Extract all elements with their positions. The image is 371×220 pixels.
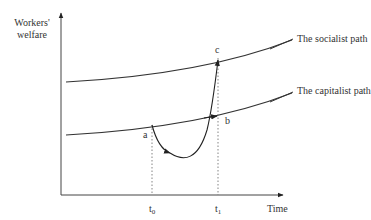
t0-tick-label: t0 bbox=[149, 203, 155, 216]
t1-tick-label: t1 bbox=[215, 203, 221, 216]
point-b-label: b bbox=[225, 115, 230, 127]
x-axis-label: Time bbox=[267, 203, 288, 215]
point-c-label: c bbox=[215, 44, 219, 56]
y-axis-label-line1: Workers' bbox=[8, 17, 56, 29]
t0-subscript: 0 bbox=[152, 208, 156, 216]
transition-path-up bbox=[170, 60, 218, 158]
y-axis-label: Workers' welfare bbox=[8, 17, 56, 40]
capitalist-path-curve bbox=[66, 93, 292, 135]
t1-subscript: 1 bbox=[218, 208, 222, 216]
socialist-path-curve bbox=[66, 40, 292, 82]
capitalist-path-label: The capitalist path bbox=[297, 85, 371, 97]
point-a-label: a bbox=[143, 129, 147, 141]
capitalist-arrow-b bbox=[204, 116, 217, 118]
y-axis-label-line2: welfare bbox=[8, 29, 56, 41]
transition-path-down bbox=[152, 125, 170, 153]
socialist-path-label: The socialist path bbox=[297, 33, 368, 45]
